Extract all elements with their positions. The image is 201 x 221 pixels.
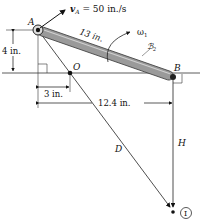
- label-O: O: [73, 62, 81, 72]
- dim-4in-label: 4 in.: [2, 46, 21, 56]
- omega-label: ω1: [137, 27, 147, 38]
- label-B: B: [173, 63, 181, 73]
- velocity-arrow: [40, 10, 65, 28]
- point-O: [68, 71, 73, 76]
- label-A: A: [27, 17, 35, 27]
- body-label: ℬ2: [147, 42, 156, 52]
- label-D: D: [114, 144, 122, 154]
- linkage-diagram: A B O I vA = 50 in./s 13 in. ω1 ℬ2 4 in.…: [0, 0, 201, 221]
- label-H: H: [177, 138, 186, 148]
- dim-3in-label: 3 in.: [44, 89, 63, 99]
- dim-12in-label: 12.4 in.: [98, 98, 131, 108]
- right-angle-marker-a: [38, 64, 47, 73]
- pivot-B: [170, 74, 176, 80]
- velocity-label: vA = 50 in./s: [70, 4, 127, 15]
- label-I: I: [184, 209, 187, 218]
- point-I: [171, 210, 175, 214]
